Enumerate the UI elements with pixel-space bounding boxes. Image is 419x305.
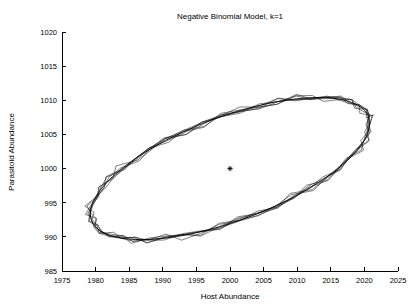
x-axis-label: Host Abundance [201,292,260,301]
y-tick-label: 985 [44,267,57,276]
x-tick-label: 2025 [390,276,407,285]
x-tick-label: 1975 [54,276,71,285]
y-tick-label: 1000 [40,164,57,173]
matlab-figure-window: Negative Binomial Model, k=1 19751980198… [0,0,419,305]
x-tick-label: 2010 [289,276,306,285]
chart-title: Negative Binomial Model, k=1 [177,12,284,21]
y-tick-label: 1010 [40,96,57,105]
x-tick-label: 1995 [188,276,205,285]
y-tick-label: 1005 [40,130,57,139]
x-tick-label: 2015 [322,276,339,285]
y-tick-label: 995 [44,199,57,208]
x-tick-label: 1980 [87,276,104,285]
x-tick-label: 1985 [121,276,138,285]
y-tick-label: 1015 [40,62,57,71]
x-tick-label: 2000 [222,276,239,285]
equilibrium-point-marker [227,166,232,171]
y-axis-label: Parasitoid Abundance [7,113,16,191]
figure-background [0,0,419,305]
y-tick-label: 1020 [40,28,57,37]
x-tick-label: 1990 [154,276,171,285]
x-tick-label: 2005 [255,276,272,285]
y-tick-label: 990 [44,233,57,242]
x-tick-label: 2020 [356,276,373,285]
phase-plane-chart: Negative Binomial Model, k=1 19751980198… [0,0,419,305]
